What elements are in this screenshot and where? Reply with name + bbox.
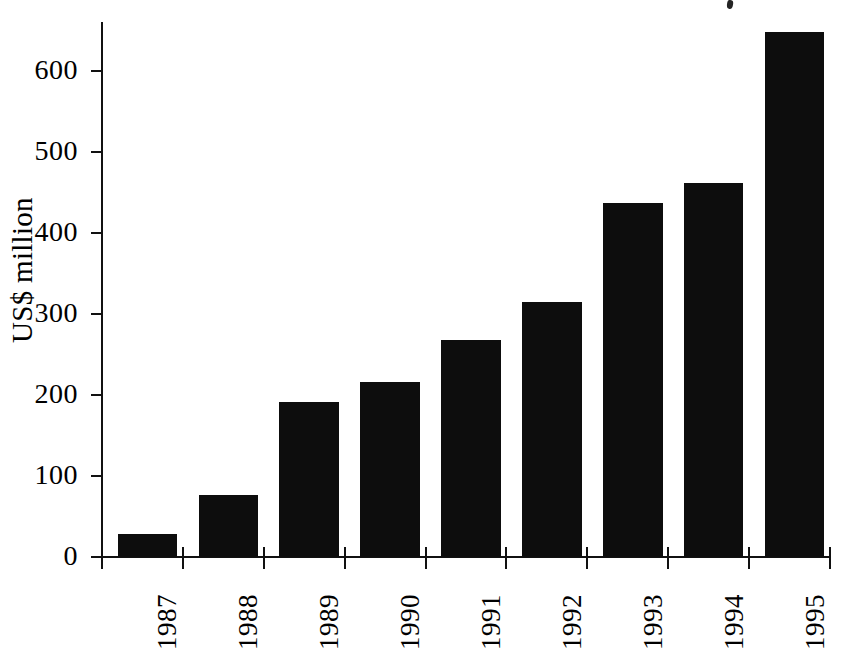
y-tick-label-0: 0: [8, 542, 78, 570]
y-tick-label-600: 600: [8, 56, 78, 84]
y-tick-label-300: 300: [8, 299, 78, 327]
x-tick-label-1994: 1994: [721, 594, 748, 650]
bar-1993: [603, 203, 662, 557]
plot-area: [101, 22, 829, 557]
x-tick-label-1992: 1992: [559, 594, 586, 650]
bar-1990: [360, 382, 419, 557]
bar-1988: [199, 495, 258, 557]
bar-1992: [522, 302, 581, 557]
bar-1989: [279, 402, 338, 557]
x-tick-label-1995: 1995: [802, 594, 829, 650]
y-tick-label-400: 400: [8, 218, 78, 246]
y-tick-label-500: 500: [8, 137, 78, 165]
x-tick-label-1993: 1993: [640, 594, 667, 650]
bar-1987: [118, 534, 177, 557]
x-tick-label-1987: 1987: [154, 594, 181, 650]
x-tick-label-1988: 1988: [235, 594, 262, 650]
x-tick-label-1991: 1991: [478, 594, 505, 650]
bar-1991: [441, 340, 500, 557]
y-tick-label-100: 100: [8, 461, 78, 489]
x-tick-label-1990: 1990: [397, 594, 424, 650]
bar-chart-figure: US$ million 0100200300400500600 19871988…: [0, 0, 846, 659]
x-tick-label-1989: 1989: [316, 594, 343, 650]
ink-artifact: [726, 0, 733, 9]
bar-1995: [765, 32, 824, 557]
bar-1994: [684, 183, 743, 557]
x-tick-1995: [829, 547, 831, 569]
y-tick-label-200: 200: [8, 380, 78, 408]
